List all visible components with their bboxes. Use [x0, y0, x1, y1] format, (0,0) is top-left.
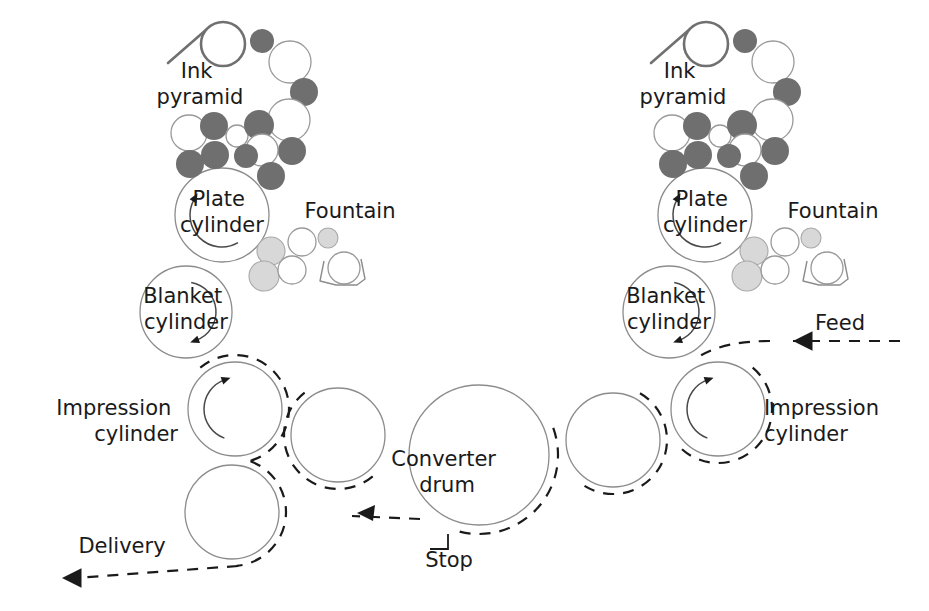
ink-roller-left-12 — [176, 150, 204, 178]
fountain-roller-left-2 — [318, 228, 338, 248]
ink-roller-right-12 — [659, 150, 687, 178]
blanket-cylinder-right-line1: Blanket — [626, 284, 705, 308]
ink-roller-right-13 — [740, 162, 768, 190]
label-delivery: Delivery — [78, 534, 165, 558]
impression-cylinder-left — [188, 362, 282, 456]
ink-roller-right-4 — [761, 137, 789, 165]
delivery-line1: Delivery — [78, 534, 165, 558]
fountain-roller-left-4 — [278, 256, 306, 284]
ink-roller-right-9 — [684, 141, 712, 169]
plate-cylinder-left-line1: Plate — [192, 187, 245, 211]
offset-press-diagram: Ink pyramid Ink pyramid Plate cylinder P… — [0, 0, 929, 611]
impression-cylinder-left-line1: Impression — [56, 396, 171, 420]
converter-drum-line1: Converter — [391, 447, 496, 471]
ink-roller-left-4 — [278, 137, 306, 165]
ink-roller-left-9 — [201, 141, 229, 169]
plate-cylinder-right-line1: Plate — [675, 187, 728, 211]
feed-line1: Feed — [815, 311, 865, 335]
impression-cylinder-right-line1: Impression — [764, 396, 879, 420]
impression-cylinder-right-line2: cylinder — [764, 422, 848, 446]
ink-roller-right-0 — [733, 29, 757, 53]
ink-pyramid-right-line2: pyramid — [640, 85, 727, 109]
delivery-cylinder — [185, 465, 279, 559]
converter-drum-line2: drum — [419, 473, 475, 497]
blanket-cylinder-left-line1: Blanket — [143, 284, 222, 308]
ink-roller-right-1 — [752, 41, 794, 83]
label-feed: Feed — [815, 311, 865, 335]
transfer-cylinder-right — [566, 393, 660, 487]
ink-roller-right-11 — [717, 144, 741, 168]
fountain-roller-right-4 — [761, 256, 789, 284]
impression-cylinder-left-line2: cylinder — [94, 422, 178, 446]
fountain-left-line1: Fountain — [304, 199, 395, 223]
fountain-roller-right-3 — [732, 261, 762, 291]
ink-roller-left-0 — [250, 29, 274, 53]
fountain-roller-left-1 — [288, 228, 316, 256]
impression-cylinder-right — [671, 362, 765, 456]
plate-cylinder-left-line2: cylinder — [180, 213, 264, 237]
ink-roller-left-1 — [269, 41, 311, 83]
plate-cylinder-right-line2: cylinder — [663, 213, 747, 237]
ink-pyramid-left-line2: pyramid — [157, 85, 244, 109]
ink-roller-left-3 — [268, 99, 310, 141]
fountain-roller-left-5 — [328, 252, 360, 284]
transfer-cylinder-left — [291, 388, 385, 482]
ink-pyramid-left-line1: Ink — [181, 59, 214, 83]
ink-pyramid-right-line1: Ink — [664, 59, 697, 83]
fountain-roller-right-5 — [811, 252, 843, 284]
fountain-roller-right-2 — [801, 228, 821, 248]
stop-line1: Stop — [425, 548, 473, 572]
ink-roller-left-13 — [257, 162, 285, 190]
fountain-right-line1: Fountain — [787, 199, 878, 223]
fountain-roller-right-1 — [771, 228, 799, 256]
label-fountain-left: Fountain — [304, 199, 395, 223]
fountain-roller-left-3 — [249, 261, 279, 291]
press-diagram-root: Ink pyramid Ink pyramid Plate cylinder P… — [0, 0, 929, 611]
blanket-cylinder-left-line2: cylinder — [144, 310, 228, 334]
label-fountain-right: Fountain — [787, 199, 878, 223]
blanket-cylinder-right-line2: cylinder — [627, 310, 711, 334]
label-stop: Stop — [425, 548, 473, 572]
ink-roller-left-11 — [234, 144, 258, 168]
ink-roller-left-6 — [200, 112, 228, 140]
ink-roller-right-6 — [683, 112, 711, 140]
ink-roller-right-3 — [751, 99, 793, 141]
